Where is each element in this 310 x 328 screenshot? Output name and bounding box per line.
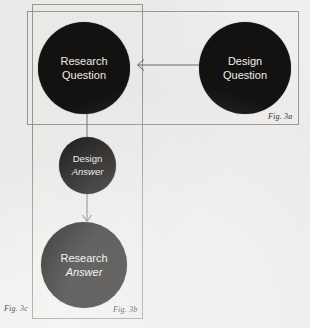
figure-label-fig3a: Fig. 3a — [268, 112, 293, 121]
node-design-question-line1: Design — [228, 54, 262, 68]
figure-label-fig3c: Fig. 3c — [4, 304, 28, 313]
node-research-question-line1: Research — [60, 54, 107, 68]
arrow-design-answer-to-research-answer — [80, 190, 94, 226]
node-research-answer-line1: Research — [60, 251, 107, 265]
node-research-question[interactable]: Research Question — [38, 22, 130, 114]
node-design-answer[interactable]: Design Answer — [59, 137, 116, 194]
node-design-answer-line2: Answer — [72, 166, 104, 178]
node-research-answer[interactable]: Research Answer — [41, 222, 127, 308]
node-design-question[interactable]: Design Question — [199, 22, 291, 114]
arrow-design-question-to-research-question — [130, 58, 204, 72]
figure-canvas: Research Question Design Question Design… — [0, 0, 310, 328]
node-design-question-line2: Question — [223, 68, 267, 82]
figure-label-fig3b: Fig. 3b — [113, 305, 138, 314]
node-design-answer-line1: Design — [73, 153, 103, 165]
node-research-answer-line2: Answer — [66, 265, 103, 279]
node-research-question-line2: Question — [62, 68, 106, 82]
